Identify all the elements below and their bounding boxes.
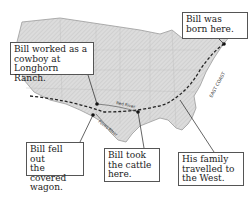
callout-born: Bill was born here. xyxy=(182,12,248,39)
east-coast-label: EAST COAST xyxy=(208,71,226,99)
callout-family: His family travelled to the West. xyxy=(178,152,244,186)
callout-cowboy: Bill worked as a cowboy at Longhorn Ranc… xyxy=(10,42,94,75)
callout-cattle: Bill took the cattle here. xyxy=(104,148,160,182)
callout-wagon: Bill fell out the covered wagon. xyxy=(26,142,84,176)
